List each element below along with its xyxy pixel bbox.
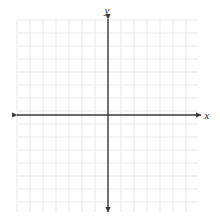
y-axis-label: y (104, 4, 110, 16)
graph-svg: x y (0, 0, 220, 221)
x-axis-label: x (204, 109, 210, 121)
coordinate-plane-figure: x y (0, 0, 220, 221)
